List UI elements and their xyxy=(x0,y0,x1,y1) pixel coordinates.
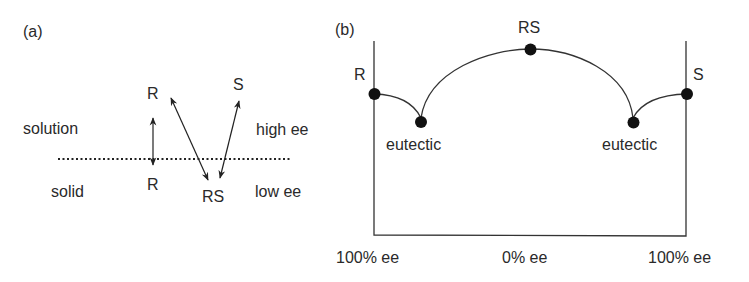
region-solution-label: solution xyxy=(23,121,78,137)
region-high-ee-label: high ee xyxy=(256,122,309,138)
panel-a-label: (a) xyxy=(23,24,43,40)
eutectic-left-label: eutectic xyxy=(386,137,441,153)
x-axis-center-label: 0% ee xyxy=(502,250,547,266)
arrow-rs-to-s-solution xyxy=(220,101,239,178)
species-r-solid-label: R xyxy=(147,177,159,193)
panel-b-label: (b) xyxy=(335,22,355,38)
x-axis-right-label: 100% ee xyxy=(648,250,711,266)
eutectic-right-dot xyxy=(628,117,640,129)
r-point-dot xyxy=(369,88,381,100)
s-point-dot xyxy=(681,88,693,100)
species-rs-solid-label: RS xyxy=(202,189,224,205)
liquidus-curve-right-eutectic-to-s xyxy=(633,94,687,118)
species-r-solution-label: R xyxy=(147,86,159,102)
arrow-rs-to-r-solution xyxy=(171,98,208,180)
eutectic-right-label: eutectic xyxy=(602,137,657,153)
liquidus-curve-r-to-left-eutectic xyxy=(374,94,421,118)
species-s-solution-label: S xyxy=(233,77,244,93)
panel-a-graphics xyxy=(58,98,290,180)
region-solid-label: solid xyxy=(51,184,84,200)
x-axis-left-label: 100% ee xyxy=(336,250,399,266)
eutectic-left-dot xyxy=(415,116,427,128)
region-low-ee-label: low ee xyxy=(255,184,301,200)
rs-point-dot xyxy=(525,44,537,56)
point-rs-label: RS xyxy=(518,20,540,36)
liquidus-curve-rs-dome xyxy=(421,49,633,118)
point-s-label: S xyxy=(693,67,704,83)
point-r-label: R xyxy=(354,67,366,83)
